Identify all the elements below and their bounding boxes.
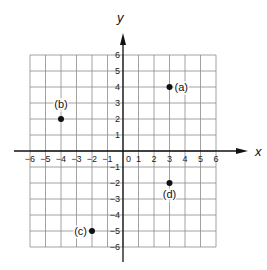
x-axis-arrow-icon (236, 148, 248, 154)
y-tick-label: 5 (115, 66, 120, 76)
x-tick-label: −3 (71, 154, 81, 164)
x-tick-label: 5 (198, 154, 203, 164)
y-tick-label: −6 (110, 242, 120, 252)
y-tick-label: 3 (115, 98, 120, 108)
axes: xy (14, 10, 262, 262)
y-tick-label: −4 (110, 210, 120, 220)
x-tick-label: 6 (213, 154, 218, 164)
y-tick-label: −1 (110, 162, 120, 172)
data-point-marker (167, 84, 173, 90)
y-axis-arrow-icon (120, 33, 126, 45)
x-tick-label: 2 (151, 154, 156, 164)
x-tick-label: 0 (126, 154, 131, 164)
x-tick-label: 3 (167, 154, 172, 164)
coordinate-plane: xy −6−5−4−3−2−10123456−6−5−4−3−2−1123456… (0, 0, 267, 270)
data-point-label: (c) (74, 225, 87, 237)
data-point-marker (58, 116, 64, 122)
y-tick-label: 4 (115, 82, 120, 92)
y-tick-label: −3 (110, 194, 120, 204)
y-axis-label: y (116, 10, 125, 25)
y-tick-label: −5 (110, 226, 120, 236)
x-tick-label: −6 (25, 154, 35, 164)
data-point-label: (d) (163, 188, 176, 200)
y-tick-label: 1 (115, 130, 120, 140)
data-point-marker (89, 228, 95, 234)
x-tick-label: −2 (87, 154, 97, 164)
y-tick-label: −2 (110, 178, 120, 188)
data-point-label: (b) (54, 98, 67, 110)
data-point-marker (167, 180, 173, 186)
x-tick-label: −4 (56, 154, 66, 164)
y-tick-label: 2 (115, 114, 120, 124)
data-point-label: (a) (175, 81, 188, 93)
x-tick-label: 4 (182, 154, 187, 164)
x-axis-label: x (254, 144, 262, 159)
y-tick-label: 6 (115, 50, 120, 60)
x-tick-label: 1 (136, 154, 141, 164)
x-tick-label: −5 (40, 154, 50, 164)
